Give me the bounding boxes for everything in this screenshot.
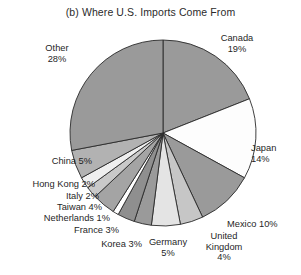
slice-label-canada-name: Canada	[206, 33, 268, 44]
slice-label-mexico: Mexico 10%	[227, 219, 301, 230]
slice-label-japan-name: Japan	[251, 143, 299, 154]
slice-label-japan-value: 14%	[251, 154, 299, 165]
slice-label-uk-name-1: United	[190, 231, 258, 242]
slice-label-canada-value: 19%	[206, 44, 268, 55]
slice-label-germany-value: 5%	[139, 248, 197, 259]
slice-label-uk-value: 4%	[190, 252, 258, 263]
slice-label-other: Other 28%	[29, 43, 85, 64]
slice-label-korea: Korea 3%	[80, 239, 142, 250]
slice-label-netherlands: Netherlands 1%	[6, 213, 110, 224]
slice-label-other-value: 28%	[29, 54, 85, 65]
slice-label-germany-name: Germany	[139, 237, 197, 248]
slice-label-canada: Canada 19%	[206, 33, 268, 54]
slice-label-china: China 5%	[18, 156, 92, 167]
slice-label-italy: Italy 2%	[31, 191, 99, 202]
slice-label-taiwan: Taiwan 4%	[24, 202, 102, 213]
slice-label-uk-name-2: Kingdom	[190, 242, 258, 253]
chart-canvas: (b) Where U.S. Imports Come From Canada …	[0, 0, 301, 275]
slice-label-other-name: Other	[29, 43, 85, 54]
slice-label-germany: Germany 5%	[139, 237, 197, 258]
slice-label-japan: Japan 14%	[251, 143, 299, 164]
slice-label-hong-kong: Hong Kong 2%	[2, 179, 95, 190]
slice-label-france: France 3%	[57, 225, 119, 236]
slice-label-united-kingdom: United Kingdom 4%	[190, 231, 258, 263]
page-title: (b) Where U.S. Imports Come From	[0, 6, 301, 18]
